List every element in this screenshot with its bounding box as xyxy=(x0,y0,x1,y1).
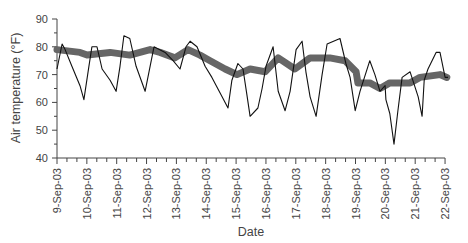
x-tick-label: 12-Sep-03 xyxy=(141,168,153,219)
x-tick-label: 17-Sep-03 xyxy=(290,168,302,219)
x-tick-label: 21-Sep-03 xyxy=(409,168,421,219)
y-tick-label: 80 xyxy=(36,41,48,53)
x-tick-label: 13-Sep-03 xyxy=(170,168,182,219)
y-axis: 405060708090 xyxy=(36,13,57,164)
x-axis: 9-Sep-0310-Sep-0311-Sep-0312-Sep-0313-Se… xyxy=(51,158,451,219)
x-tick-label: 9-Sep-03 xyxy=(51,168,63,213)
y-tick-label: 40 xyxy=(36,152,48,164)
x-axis-title: Date xyxy=(238,225,264,239)
x-tick-label: 10-Sep-03 xyxy=(81,168,93,219)
temperature-chart: 405060708090 9-Sep-0310-Sep-0311-Sep-031… xyxy=(0,0,468,243)
y-tick-label: 90 xyxy=(36,13,48,25)
x-tick-label: 19-Sep-03 xyxy=(350,168,362,219)
y-axis-title: Air temperature (°F) xyxy=(9,33,23,144)
x-tick-label: 14-Sep-03 xyxy=(200,168,212,219)
x-tick-label: 18-Sep-03 xyxy=(320,168,332,219)
x-tick-label: 22-Sep-03 xyxy=(439,168,451,219)
y-tick-label: 50 xyxy=(36,124,48,136)
x-tick-label: 11-Sep-03 xyxy=(111,168,123,219)
y-tick-label: 60 xyxy=(36,96,48,108)
x-tick-label: 20-Sep-03 xyxy=(379,168,391,219)
series-layer xyxy=(57,36,448,144)
series-mean-temperature xyxy=(57,50,447,89)
y-tick-label: 70 xyxy=(36,69,48,81)
x-tick-label: 16-Sep-03 xyxy=(260,168,272,219)
x-tick-label: 15-Sep-03 xyxy=(230,168,242,219)
